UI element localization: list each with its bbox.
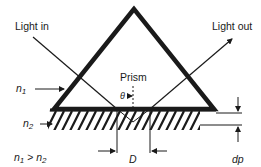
n2-subscript: 2 bbox=[28, 122, 34, 131]
prism-triangle bbox=[54, 9, 214, 109]
n1-indicator: n1 bbox=[16, 82, 64, 96]
light-out-label: Light out bbox=[212, 20, 252, 32]
svg-text:n1: n1 bbox=[16, 82, 26, 96]
n2-indicator: n2 bbox=[23, 117, 52, 131]
penetration-depth-dimension bbox=[200, 97, 242, 142]
theta-label: θ bbox=[120, 91, 125, 101]
prism-label: Prism bbox=[120, 71, 147, 83]
refractive-index-relation: n1 > n2 bbox=[14, 151, 47, 165]
light-in-label: Light in bbox=[15, 20, 49, 32]
lower-medium-hatching bbox=[46, 111, 208, 131]
penetration-depth-label: dp bbox=[232, 153, 244, 165]
light-out-ray bbox=[150, 39, 232, 109]
prism-atr-diagram: Light in Light out Prism θ n1 n2 n1 > n2… bbox=[0, 0, 261, 167]
n1-subscript: 1 bbox=[22, 87, 26, 96]
lateral-shift-label: D bbox=[129, 153, 137, 165]
svg-text:n2: n2 bbox=[23, 117, 34, 131]
